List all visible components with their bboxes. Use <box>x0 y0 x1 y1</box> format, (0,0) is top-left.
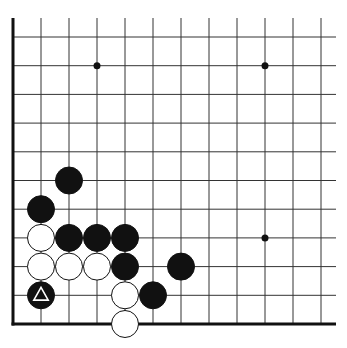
white-stone <box>84 253 111 280</box>
stones <box>28 167 195 338</box>
black-stone <box>112 253 139 280</box>
white-stone <box>112 282 139 309</box>
black-stone <box>56 224 83 251</box>
black-stone <box>28 196 55 223</box>
white-stone <box>28 253 55 280</box>
black-stone <box>168 253 195 280</box>
star-point <box>262 62 269 69</box>
black-stone <box>84 224 111 251</box>
white-stone <box>28 224 55 251</box>
black-stone <box>28 282 55 309</box>
black-stone <box>140 282 167 309</box>
black-stone <box>56 167 83 194</box>
go-board[interactable] <box>0 0 347 348</box>
white-stone <box>112 311 139 338</box>
white-stone <box>56 253 83 280</box>
star-point <box>262 234 269 241</box>
black-stone <box>112 224 139 251</box>
star-point <box>94 62 101 69</box>
